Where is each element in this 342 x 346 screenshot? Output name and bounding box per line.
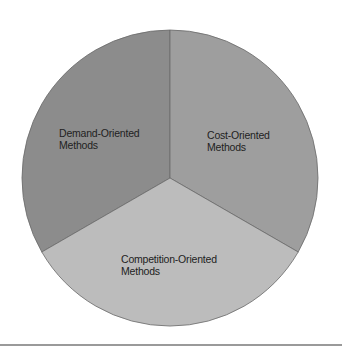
- label-demand-line2: Methods: [59, 139, 139, 151]
- label-demand-oriented: Demand-Oriented Methods: [59, 127, 139, 151]
- label-cost-line1: Cost-Oriented: [207, 129, 270, 141]
- label-cost-line2: Methods: [207, 141, 270, 153]
- label-competition-line2: Methods: [121, 265, 217, 277]
- pie-chart: [0, 0, 342, 346]
- label-cost-oriented: Cost-Oriented Methods: [207, 129, 270, 153]
- label-competition-oriented: Competition-Oriented Methods: [121, 253, 217, 277]
- label-demand-line1: Demand-Oriented: [59, 127, 139, 139]
- label-competition-line1: Competition-Oriented: [121, 253, 217, 265]
